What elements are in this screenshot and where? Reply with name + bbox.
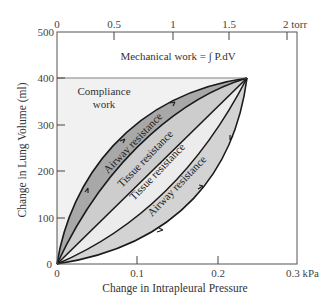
- compliance-work-label-line1: Compliance: [77, 85, 130, 97]
- y-tick-400: 400: [38, 72, 55, 84]
- y-tick-100: 100: [38, 212, 55, 224]
- x-tick-0.3-kpa: 0.3 kPa: [286, 267, 319, 279]
- y-tick-200: 200: [38, 165, 55, 177]
- top-tick-1: 1: [170, 18, 176, 30]
- lung-work-diagram: 0 100 200 300 400 500 0 0.1 0.2 0.3 kPa …: [0, 0, 335, 302]
- x-tick-0.2: 0.2: [211, 267, 225, 279]
- x-axis-title: Change in Intrapleural Pressure: [102, 282, 247, 295]
- y-tick-0: 0: [47, 258, 53, 270]
- top-tick-0.5: 0.5: [107, 18, 121, 30]
- y-tick-500: 500: [38, 26, 55, 38]
- y-tick-300: 300: [38, 119, 55, 131]
- mechanical-work-annotation: Mechanical work = ∫ P.dV: [120, 50, 235, 63]
- x-tick-0.1: 0.1: [130, 267, 144, 279]
- top-tick-0: 0: [54, 18, 60, 30]
- y-axis-title: Change in Lung Volume (ml): [16, 82, 29, 217]
- x-tick-0: 0: [54, 267, 60, 279]
- top-tick-2-torr: 2 torr: [283, 18, 307, 30]
- top-tick-1.5: 1.5: [222, 18, 236, 30]
- compliance-work-label-line2: work: [93, 98, 116, 110]
